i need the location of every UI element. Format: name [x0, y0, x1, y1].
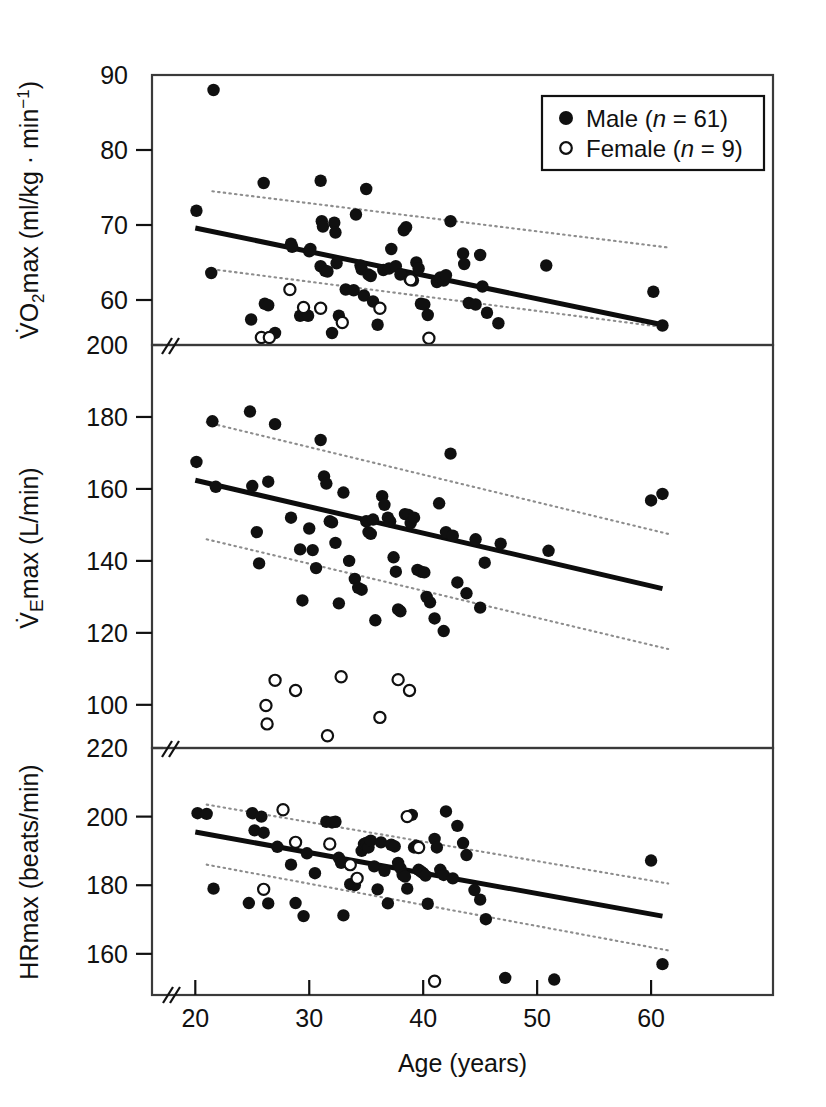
- data-point-male: [474, 249, 486, 261]
- y-tick-label-middle-200: 200: [86, 331, 128, 359]
- y-tick-label-middle-160: 160: [86, 475, 128, 503]
- data-point-male: [255, 810, 267, 822]
- x-axis: 2030405060: [163, 980, 665, 1032]
- data-point-female: [393, 674, 404, 685]
- data-point-male: [656, 319, 668, 331]
- x-tick-label-30: 30: [295, 1004, 323, 1032]
- data-point-female: [290, 837, 301, 848]
- y-tick-label-middle-120: 120: [86, 619, 128, 647]
- data-point-male: [408, 512, 420, 524]
- data-point-male: [437, 625, 449, 637]
- data-point-male: [460, 849, 472, 861]
- y-axis-title-vemax: V̇Emax (L/min): [15, 467, 47, 628]
- data-point-female: [374, 303, 385, 314]
- data-point-male: [424, 596, 436, 608]
- data-point-male: [244, 405, 256, 417]
- data-point-male: [385, 243, 397, 255]
- data-point-male: [474, 601, 486, 613]
- data-point-male: [355, 583, 367, 595]
- data-point-male: [400, 221, 412, 233]
- data-point-male: [375, 836, 387, 848]
- y-tick-label-bottom-220: 220: [86, 734, 128, 762]
- data-point-male: [330, 257, 342, 269]
- data-point-female: [405, 274, 416, 285]
- data-point-male: [333, 597, 345, 609]
- data-point-male: [285, 512, 297, 524]
- data-point-male: [320, 477, 332, 489]
- y-axis-title-vo2max: V̇O2max (ml/kg · min−1): [14, 81, 48, 339]
- data-point-male: [371, 319, 383, 331]
- data-point-male: [200, 808, 212, 820]
- data-point-male: [246, 480, 258, 492]
- data-point-male: [314, 175, 326, 187]
- data-point-male: [645, 854, 657, 866]
- data-point-female: [402, 811, 413, 822]
- legend-label-male: Male (n = 61): [586, 105, 728, 132]
- data-point-male: [365, 528, 377, 540]
- x-tick-label-40: 40: [409, 1004, 437, 1032]
- data-point-male: [367, 513, 379, 525]
- data-point-male: [387, 551, 399, 563]
- legend-label-female: Female (n = 9): [586, 135, 743, 162]
- data-point-female: [269, 675, 280, 686]
- data-point-male: [428, 612, 440, 624]
- data-point-female: [264, 332, 275, 343]
- data-point-female: [258, 884, 269, 895]
- data-point-male: [329, 816, 341, 828]
- data-point-male: [457, 247, 469, 259]
- data-point-male: [365, 270, 377, 282]
- data-point-male: [440, 805, 452, 817]
- y-axis-title-vo2max-text: V̇O2max (ml/kg · min−1): [14, 81, 48, 339]
- series-bottom-female: [258, 804, 440, 987]
- y-tick-label-top-90: 90: [100, 61, 128, 89]
- data-point-female: [277, 804, 288, 815]
- data-point-male: [460, 587, 472, 599]
- data-point-male: [656, 958, 668, 970]
- data-point-male: [494, 537, 506, 549]
- data-point-male: [390, 565, 402, 577]
- y-tick-label-middle-180: 180: [86, 403, 128, 431]
- data-point-male: [205, 267, 217, 279]
- data-point-male: [394, 605, 406, 617]
- data-point-male: [481, 307, 493, 319]
- data-point-male: [245, 313, 257, 325]
- data-point-male: [401, 882, 413, 894]
- legend: Male (n = 61)Female (n = 9): [542, 96, 764, 170]
- y-tick-label-bottom-160: 160: [86, 940, 128, 968]
- data-point-male: [306, 544, 318, 556]
- data-point-male: [548, 973, 560, 985]
- data-point-male: [656, 488, 668, 500]
- data-point-male: [317, 220, 329, 232]
- y-axis-title-hrmax: HRmax (beats/min): [15, 764, 43, 979]
- data-point-male: [285, 858, 297, 870]
- y-tick-label-bottom-180: 180: [86, 871, 128, 899]
- data-point-male: [451, 576, 463, 588]
- data-point-male: [645, 494, 657, 506]
- data-point-male: [378, 865, 390, 877]
- data-point-male: [309, 867, 321, 879]
- data-point-male: [206, 415, 218, 427]
- data-point-male: [457, 837, 469, 849]
- data-point-male: [297, 910, 309, 922]
- data-point-male: [360, 183, 372, 195]
- three-panel-scatter-figure: 6070809010012014016018020016018020022020…: [0, 0, 826, 1107]
- data-point-male: [412, 262, 424, 274]
- data-point-male: [422, 898, 434, 910]
- data-point-male: [257, 177, 269, 189]
- data-point-male: [262, 476, 274, 488]
- legend-marker-male: [559, 111, 573, 125]
- data-point-female: [429, 976, 440, 987]
- data-point-male: [444, 215, 456, 227]
- data-point-male: [451, 820, 463, 832]
- data-point-female: [374, 712, 385, 723]
- data-point-male: [431, 841, 443, 853]
- data-point-male: [447, 530, 459, 542]
- data-point-male: [262, 299, 274, 311]
- x-tick-label-60: 60: [637, 1004, 665, 1032]
- series-middle-male: [190, 405, 668, 637]
- y-tick-label-bottom-200: 200: [86, 803, 128, 831]
- data-point-male: [419, 869, 431, 881]
- data-point-male: [207, 84, 219, 96]
- data-point-male: [190, 205, 202, 217]
- data-point-male: [444, 447, 456, 459]
